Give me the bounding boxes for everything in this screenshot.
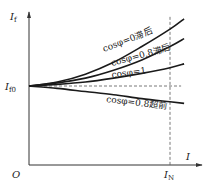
origin-label: O	[12, 169, 20, 180]
x-axis-label: I	[185, 151, 191, 162]
y-axis-label: If	[9, 11, 18, 24]
if0-label: If0	[4, 81, 16, 94]
label-cos1: cosφ=1	[111, 65, 147, 80]
in-label: IN	[163, 169, 174, 182]
curves	[29, 19, 184, 104]
label-cos08-lead: cosφ=0.8超前	[106, 93, 168, 111]
chart: If I O If0 IN cosφ=0滞后 cosφ=0.8滞后 cosφ=1…	[0, 0, 214, 192]
